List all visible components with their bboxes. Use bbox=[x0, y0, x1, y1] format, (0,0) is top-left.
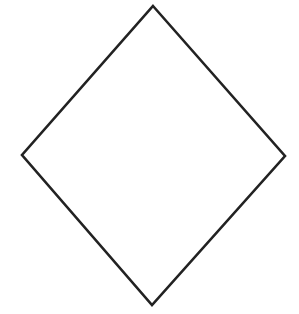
diagram-canvas bbox=[0, 0, 299, 314]
diamond-diagram bbox=[0, 0, 299, 314]
diamond-shape bbox=[22, 6, 285, 305]
